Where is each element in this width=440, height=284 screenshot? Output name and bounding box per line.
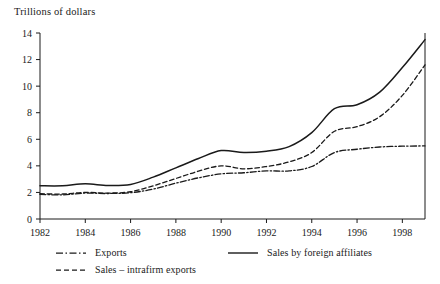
svg-text:12: 12 [22, 54, 32, 65]
legend-label-sales-by-foreign-affiliates: Sales by foreign affiliates [267, 247, 372, 258]
legend-swatch-solid-icon [228, 248, 258, 258]
svg-text:1998: 1998 [392, 227, 412, 238]
svg-text:1982: 1982 [30, 227, 50, 238]
series-line-exports [40, 146, 425, 195]
svg-text:2: 2 [27, 187, 32, 198]
chart-figure: Trillions of dollars 02468101214 1982198… [0, 0, 440, 284]
chart-axes [40, 33, 425, 219]
svg-text:6: 6 [27, 134, 32, 145]
svg-text:1994: 1994 [302, 227, 322, 238]
legend-label-sales-intrafirm-exports: Sales – intrafirm exports [95, 264, 196, 275]
svg-text:0: 0 [27, 214, 32, 225]
svg-text:4: 4 [27, 160, 32, 171]
svg-text:1986: 1986 [121, 227, 141, 238]
series-line-sales-by-foreign-affiliates [40, 40, 425, 186]
x-axis-tick-labels: 198219841986198819901992199419961998 [30, 227, 412, 238]
series-line-sales-intrafirm-exports [40, 65, 425, 194]
line-chart-plot: 02468101214 1982198419861988199019921994… [0, 0, 440, 284]
legend-item-exports: Exports [56, 245, 127, 260]
chart-series-lines [40, 40, 425, 195]
svg-text:1984: 1984 [75, 227, 95, 238]
legend-swatch-dashdot-icon [56, 248, 86, 258]
chart-legend: Exports Sales by foreign affiliates Sale… [0, 244, 440, 284]
y-axis-tick-labels: 02468101214 [22, 28, 32, 225]
legend-item-sales-by-foreign-affiliates: Sales by foreign affiliates [228, 245, 372, 260]
legend-swatch-dashed-icon [56, 265, 86, 275]
svg-text:1996: 1996 [347, 227, 367, 238]
svg-text:10: 10 [22, 81, 32, 92]
legend-label-exports: Exports [95, 247, 127, 258]
svg-text:1990: 1990 [211, 227, 231, 238]
legend-item-sales-intrafirm-exports: Sales – intrafirm exports [56, 262, 196, 277]
svg-text:1992: 1992 [256, 227, 276, 238]
svg-text:8: 8 [27, 107, 32, 118]
svg-text:14: 14 [22, 28, 32, 39]
svg-text:1988: 1988 [166, 227, 186, 238]
